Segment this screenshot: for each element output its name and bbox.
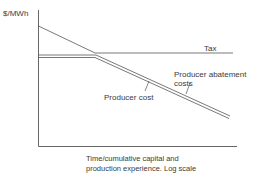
producer-cost-leader bbox=[145, 81, 149, 91]
producer-abatement-costs-line bbox=[39, 55, 231, 116]
chart-canvas bbox=[0, 0, 254, 173]
x-axis-label-line2: production experience. Log scale bbox=[86, 164, 254, 174]
y-axis-label: $/MWh bbox=[3, 9, 28, 18]
abatement-annotation-line2: costs bbox=[174, 79, 193, 88]
x-axis-label: Time/cumulative capital and production e… bbox=[86, 154, 254, 173]
tax-annotation: Tax bbox=[204, 44, 216, 53]
x-axis-label-line1: Time/cumulative capital and bbox=[86, 154, 254, 164]
producer-cost-annotation: Producer cost bbox=[104, 93, 153, 102]
producer-cost-line bbox=[39, 58, 230, 119]
abatement-annotation-line1: Producer abatement bbox=[174, 70, 247, 79]
